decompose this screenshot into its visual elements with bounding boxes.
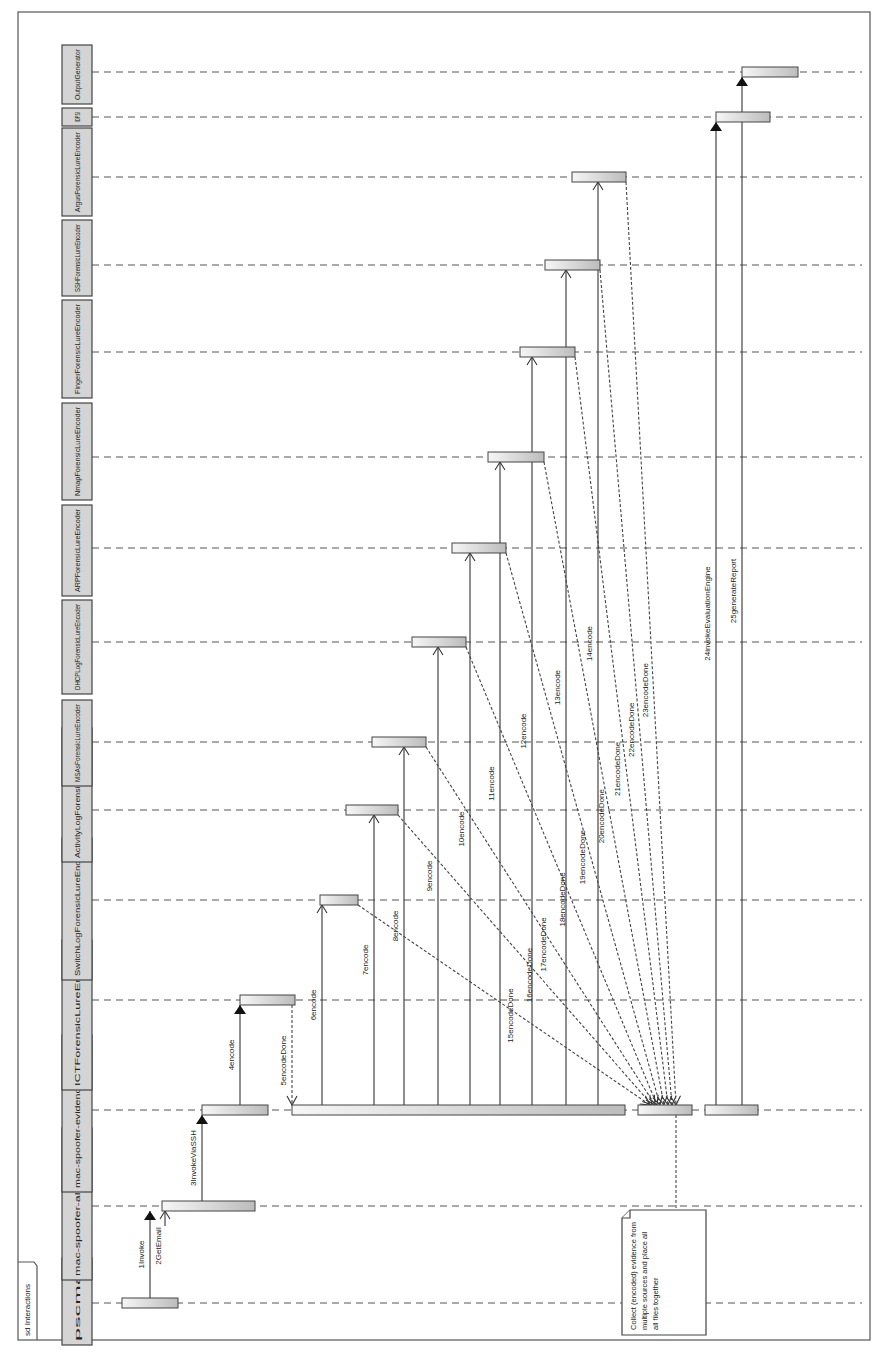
message-7: 7encode <box>361 815 379 1105</box>
message-4: 4encode <box>227 1005 246 1105</box>
activation-bar-ssh <box>545 260 600 270</box>
participant-headers: pscmailmac-spoofer-alert-handlermac-spoo… <box>62 45 92 1345</box>
activation-bar-collector <box>638 1105 692 1115</box>
notes: Collect (encoded) evidence frommultiple … <box>622 1115 706 1335</box>
message-label: 2GetEmail <box>154 1227 163 1265</box>
message-label: 21encodeDone <box>613 741 622 796</box>
message-label: 13encode <box>553 669 562 705</box>
message-label: 9encode <box>425 860 434 891</box>
message-label: 18encodeDone <box>558 872 567 927</box>
participant-name: IDPSI <box>73 112 82 122</box>
message-10: 10encode <box>457 553 475 1105</box>
message-label: 24invokeEvaluationEngine <box>703 566 712 661</box>
participant-name: SSHForensicLureEncoder <box>73 224 82 292</box>
participant-arp: ARPForensicLureEncoder <box>62 505 92 596</box>
message-label: 10encode <box>457 811 466 847</box>
message-5: 5encodeDone <box>279 1005 297 1105</box>
activation-bar-switch <box>320 895 358 905</box>
participant-nmap: NmapForensicLureEncoder <box>62 403 92 500</box>
participant-name: ArgusForensicLureEncoder <box>73 132 82 212</box>
message-21: 21encodeDone <box>575 357 672 1105</box>
message-label: 4encode <box>227 1039 236 1070</box>
message-label: 22encodeDone <box>627 702 636 757</box>
participant-output: OutputGenerator <box>62 45 92 104</box>
frame-label-tab: sd Interactions <box>18 1262 37 1340</box>
activation-bar-idps <box>716 112 770 122</box>
participant-name: MSAsForensicLureEncoder <box>73 704 82 782</box>
message-label: 17encodeDone <box>539 917 548 972</box>
sequence-diagram: sd Interactions pscmailmac-spoofer-alert… <box>0 0 892 1355</box>
activation-bar-msas <box>372 737 426 747</box>
participant-name: OutputGenerator <box>73 49 82 100</box>
note-text-line: Collect (encoded) evidence from <box>629 1222 638 1330</box>
message-2: 2GetEmail <box>154 1211 170 1265</box>
activation-bar-nmap <box>488 452 544 462</box>
message-6: 6encode <box>309 905 327 1105</box>
activation-bar-finger <box>520 347 575 357</box>
message-label: 23encodeDone <box>641 662 650 717</box>
participant-ssh: SSHForensicLureEncoder <box>62 220 92 296</box>
activation-bars <box>122 67 798 1308</box>
message-22: 22encodeDone <box>600 270 676 1105</box>
participant-msas: MSAsForensicLureEncoder <box>62 700 92 786</box>
message-label: 3InvokeViaSSH <box>189 1130 198 1186</box>
message-11: 11encode <box>487 462 505 1105</box>
message-23: 23encodeDone <box>626 182 681 1105</box>
participant-name: FingerForensicLureEncoder <box>73 304 82 394</box>
message-label: 25generateReport <box>729 558 738 623</box>
message-14: 14encode <box>585 182 603 1105</box>
message-13: 13encode <box>553 270 571 1105</box>
message-label: 16encodeDone <box>525 947 534 1002</box>
participant-name: ARPForensicLureEncoder <box>73 509 82 592</box>
message-label: 5encodeDone <box>279 1035 288 1085</box>
activation-bar-output <box>742 67 798 77</box>
message-label: 8encode <box>391 910 400 941</box>
activation-bar-argus <box>572 172 626 182</box>
message-label: 12encode <box>519 713 528 749</box>
message-24: 24invokeEvaluationEngine <box>703 122 722 1105</box>
message-label: 7encode <box>361 944 370 975</box>
activation-bar-collector <box>292 1105 625 1115</box>
activation-bar-collector <box>705 1105 758 1115</box>
message-16: 16encodeDone <box>398 815 652 1105</box>
activation-bar-dhcp <box>412 637 466 647</box>
message-15: 15encodeDone <box>358 905 650 1105</box>
note-collect-evidence: Collect (encoded) evidence frommultiple … <box>622 1115 706 1335</box>
activation-bar-activity <box>346 805 398 815</box>
activation-bar-ict <box>240 995 295 1005</box>
message-label: 1Invoke <box>137 1240 146 1269</box>
message-9: 9encode <box>425 647 443 1105</box>
message-25: 25generateReport <box>729 77 748 1105</box>
note-text-line: multiple sources and place all <box>640 1231 649 1330</box>
message-label: 6encode <box>309 989 318 1020</box>
activation-bar-pscmail <box>122 1298 178 1308</box>
participant-dhcp: DHCPLogForensicLureEncoder <box>62 600 92 694</box>
participant-idps: IDPSI <box>62 108 92 126</box>
participant-argus: ArgusForensicLureEncoder <box>62 128 92 216</box>
message-label: 14encode <box>585 625 594 661</box>
message-20: 20encodeDone <box>544 462 667 1105</box>
message-8: 8encode <box>391 747 409 1105</box>
message-label: 15encodeDone <box>506 988 515 1043</box>
lifelines <box>92 72 862 1303</box>
note-text-line: all files together <box>651 1277 660 1330</box>
message-label: 20encodeDone <box>597 788 606 843</box>
participant-name: NmapForensicLureEncoder <box>73 407 82 496</box>
activation-bar-collector <box>202 1105 268 1115</box>
message-label: 19encodeDone <box>578 829 587 884</box>
message-label: 11encode <box>487 766 496 801</box>
frame-label: sd Interactions <box>23 1284 32 1336</box>
participant-name: DHCPLogForensicLureEncoder <box>73 604 82 690</box>
message-17: 17encodeDone <box>426 747 655 1105</box>
activation-bar-arp <box>452 543 506 553</box>
message-3: 3InvokeViaSSH <box>189 1115 208 1201</box>
participant-finger: FingerForensicLureEncoder <box>62 300 92 398</box>
activation-bar-alert <box>162 1201 255 1211</box>
